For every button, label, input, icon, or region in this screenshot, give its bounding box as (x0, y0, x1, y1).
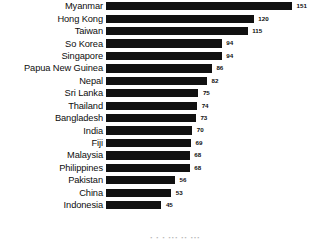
bar-value-label: 94 (222, 40, 233, 46)
bar-row: Nepal82 (0, 75, 317, 87)
bar-row: Sri Lanka75 (0, 87, 317, 99)
bar-row: Singapore94 (0, 50, 317, 62)
bar-value-label: 68 (190, 165, 201, 171)
bar-row: Papua New Guinea86 (0, 62, 317, 74)
bar-track: 68 (106, 162, 317, 174)
bar (106, 64, 212, 72)
bar-category-label: Papua New Guinea (0, 63, 106, 73)
bar-track: 69 (106, 137, 317, 149)
bar-category-label: Nepal (0, 76, 106, 86)
bar-track: 56 (106, 174, 317, 186)
bar-track: 75 (106, 87, 317, 99)
bar-track: 70 (106, 124, 317, 136)
bar-row: Thailand74 (0, 100, 317, 112)
bar-value-label: 53 (171, 190, 182, 196)
bar-track: 86 (106, 62, 317, 74)
bar-row: So Korea94 (0, 37, 317, 49)
bar-track: 68 (106, 149, 317, 161)
bar (106, 77, 207, 85)
bar-value-label: 45 (161, 202, 172, 208)
bar-track: 53 (106, 187, 317, 199)
bar (106, 189, 171, 197)
bar (106, 201, 161, 209)
bar-track: 120 (106, 12, 317, 24)
bar-row: Philippines68 (0, 162, 317, 174)
bar-value-label: 75 (198, 90, 209, 96)
bar (106, 52, 222, 60)
bar-track: 94 (106, 37, 317, 49)
bar-category-label: Thailand (0, 101, 106, 111)
bar-category-label: Sri Lanka (0, 88, 106, 98)
bar-category-label: Myanmar (0, 1, 106, 11)
bar-track: 74 (106, 100, 317, 112)
bar-track: 151 (106, 0, 317, 12)
bar-value-label: 69 (191, 140, 202, 146)
bar-value-label: 74 (197, 103, 208, 109)
bar-value-label: 120 (254, 16, 269, 22)
bar-track: 82 (106, 75, 317, 87)
bar-row: China53 (0, 187, 317, 199)
bar (106, 114, 196, 122)
bar (106, 27, 248, 35)
bar-value-label: 56 (175, 177, 186, 183)
bar-row: Taiwan115 (0, 25, 317, 37)
bar-category-label: Philippines (0, 163, 106, 173)
bar-track: 73 (106, 112, 317, 124)
bar (106, 89, 198, 97)
bar-chart: Myanmar151Hong Kong120Taiwan115So Korea9… (0, 0, 317, 244)
bar-value-label: 94 (222, 53, 233, 59)
bar-row: Malaysia68 (0, 149, 317, 161)
bar-track: 45 (106, 199, 317, 211)
bar (106, 151, 190, 159)
bar-category-label: China (0, 188, 106, 198)
bar-value-label: 151 (292, 3, 307, 9)
bar (106, 15, 254, 23)
bar (106, 126, 192, 134)
bar-category-label: Indonesia (0, 200, 106, 210)
bar-row: Myanmar151 (0, 0, 317, 12)
bar-track: 94 (106, 50, 317, 62)
bar-row: Fiji69 (0, 137, 317, 149)
bar-rows-container: Myanmar151Hong Kong120Taiwan115So Korea9… (0, 0, 317, 211)
bar-category-label: Malaysia (0, 150, 106, 160)
cut-off-footer-strip: · · · ··· ·· ··· (0, 237, 317, 244)
bar (106, 39, 222, 47)
bar (106, 176, 175, 184)
bar-value-label: 86 (212, 65, 223, 71)
bar-value-label: 115 (248, 28, 262, 34)
bar (106, 102, 197, 110)
bar-row: Bangladesh73 (0, 112, 317, 124)
bar-category-label: Bangladesh (0, 113, 106, 123)
cut-off-footer-text: · · · ··· ·· ··· (150, 237, 200, 243)
bar-track: 115 (106, 25, 317, 37)
bar-value-label: 73 (196, 115, 207, 121)
bar-category-label: Singapore (0, 51, 106, 61)
bar-value-label: 70 (192, 127, 203, 133)
bar-category-label: Taiwan (0, 26, 106, 36)
bar (106, 139, 191, 147)
bar-row: Pakistan56 (0, 174, 317, 186)
bar-category-label: Hong Kong (0, 14, 106, 24)
bar-category-label: Pakistan (0, 175, 106, 185)
bar-value-label: 68 (190, 152, 201, 158)
bar-value-label: 82 (207, 78, 218, 84)
bar (106, 2, 292, 10)
bar-row: Hong Kong120 (0, 12, 317, 24)
bar-category-label: Fiji (0, 138, 106, 148)
bar-category-label: India (0, 126, 106, 136)
bar-row: India70 (0, 124, 317, 136)
bar (106, 164, 190, 172)
bar-row: Indonesia45 (0, 199, 317, 211)
bar-category-label: So Korea (0, 39, 106, 49)
